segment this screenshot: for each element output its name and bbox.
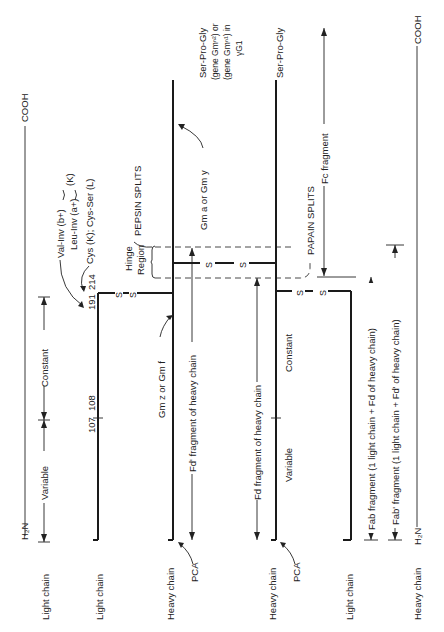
disulfide-s: S xyxy=(238,262,248,268)
arrow-head xyxy=(189,532,195,540)
legend-light-label: Light chain xyxy=(40,574,51,620)
residue-107: 107 xyxy=(86,417,97,433)
fab-fragment: Fab fragment (1 light chain + Fd of heav… xyxy=(364,277,378,540)
pca-label: PCA xyxy=(291,562,302,582)
arrow-head xyxy=(368,532,374,540)
legend-heavy-nterm: H₂N xyxy=(412,527,423,545)
brace xyxy=(63,190,77,200)
chain-label: Light chain xyxy=(94,574,105,620)
ser-pro-gly-2: Ser-Pro-Gly xyxy=(274,28,285,78)
heavy-chain-1: Heavy chain PCA Gm z or Gm f Gm a or Gm … xyxy=(156,23,244,620)
arrow-head xyxy=(321,268,327,276)
chain-label: Light chain xyxy=(344,574,355,620)
arrow-head xyxy=(254,532,260,540)
ser-pro-gly-1: Ser-Pro-Gly xyxy=(197,28,208,78)
pepsin-label: PEPSIN SPLITS xyxy=(132,166,143,236)
legend-light-nterm: H₂N xyxy=(19,522,30,540)
arrow-head xyxy=(166,315,173,320)
fc-label: Fc fragment xyxy=(319,133,330,184)
disulfide-s: S xyxy=(318,290,328,296)
gm-a-label: Gm a or Gm y xyxy=(198,170,209,230)
hinge-label-2: Region xyxy=(135,245,146,275)
light-chain-2: Light chain xyxy=(343,291,355,620)
variable-label: Variable xyxy=(283,448,294,482)
legend-heavy-label: Heavy chain xyxy=(412,568,423,620)
pca-label: PCA xyxy=(189,562,200,582)
papain-label: PAPAIN SPLITS xyxy=(305,186,316,255)
fab-label: Fab fragment (1 light chain + Fd of heav… xyxy=(366,328,377,530)
fd-prime-label: Fd' fragment of heavy chain xyxy=(187,355,198,472)
arrow-head xyxy=(41,297,47,305)
legend-light-cterm: COOH xyxy=(19,93,30,122)
gene-label-1: (gene Gmⁿ²) or xyxy=(210,23,220,80)
arrow-head xyxy=(392,245,398,253)
gene-label-3: γG1 xyxy=(234,40,244,56)
arrow-val-inv xyxy=(60,260,83,306)
arrow-head xyxy=(41,420,47,428)
residue-214: 214 xyxy=(86,274,97,290)
arrow-head xyxy=(189,248,195,256)
legend-variable: Variable xyxy=(39,466,50,500)
pca-arrow xyxy=(180,544,193,564)
disulfide-s: S xyxy=(204,262,214,268)
arrow-head xyxy=(254,278,260,286)
constant-label: Constant xyxy=(283,334,294,372)
fab-prime-label: Fab' fragment (1 light chain + Fd' of he… xyxy=(390,319,401,525)
papain-cut-line xyxy=(155,262,310,278)
arrow-head xyxy=(41,412,47,420)
disulfide-light1-heavy1: S S xyxy=(112,292,173,298)
legend-heavy-chain: COOH H₂N Heavy chain xyxy=(412,15,423,620)
arrow-head xyxy=(41,534,47,542)
hinge-brace xyxy=(151,246,155,278)
allotype-annotations: Val-Inv (b+) Leu-Inv (a+) (K) Cys (K); C… xyxy=(55,166,155,308)
residue-191: 191 xyxy=(86,294,97,310)
legend-constant: Constant xyxy=(39,349,50,387)
arrow-head xyxy=(78,301,84,308)
chain-label: Heavy chain xyxy=(267,568,278,620)
fd-label: Fd fragment of heavy chain xyxy=(252,385,263,500)
arrow-head xyxy=(321,28,327,36)
legend-light-chain: H₂N COOH Light chain Constant Variable xyxy=(19,93,51,620)
cleavage-lines: PAPAIN SPLITS xyxy=(155,186,316,278)
gm-a-arrow xyxy=(181,126,203,148)
arrow-head xyxy=(392,532,398,540)
disulfide-s: S xyxy=(114,292,124,298)
residue-108: 108 xyxy=(86,395,97,411)
hinge-label-1: Hinge xyxy=(123,246,134,271)
gene-label-2: (gene Gmⁿ¹) in xyxy=(222,24,232,80)
disulfide-heavy1-heavy2: S S xyxy=(173,262,276,268)
disulfide-s: S xyxy=(295,290,305,296)
gm-z-label: Gm z or Gm f xyxy=(156,361,167,418)
disulfide-s: S xyxy=(128,292,138,298)
heavy-chain-2: Heavy chain PCA Ser-Pro-Gly Constant Var… xyxy=(267,28,302,620)
disulfide-heavy2-light2: S S xyxy=(276,290,351,296)
immunoglobulin-diagram: H₂N COOH Light chain Constant Variable 1… xyxy=(0,0,444,632)
legend-heavy-cterm: COOH xyxy=(412,15,423,44)
chain-label: Heavy chain xyxy=(165,568,176,620)
pca-arrow xyxy=(282,544,295,564)
leu-inv-label: Leu-Inv (a+) xyxy=(68,199,79,251)
arrow-head xyxy=(178,124,185,130)
fab-prime-fragment: Fab' fragment (1 light chain + Fd' of he… xyxy=(386,245,404,540)
fd-prime-fragment: Fd' fragment of heavy chain xyxy=(186,248,198,540)
light-chain-1: 107 108 191 214 Light chain xyxy=(86,274,112,620)
kappa-label: (K) xyxy=(64,173,75,186)
cys-label: Cys (K); Cys-Ser (L) xyxy=(84,179,95,265)
fd-fragment: Fd fragment of heavy chain xyxy=(251,278,263,540)
val-inv-label: Val-Inv (b+) xyxy=(55,209,66,258)
fc-fragment: Fc fragment xyxy=(317,28,356,277)
